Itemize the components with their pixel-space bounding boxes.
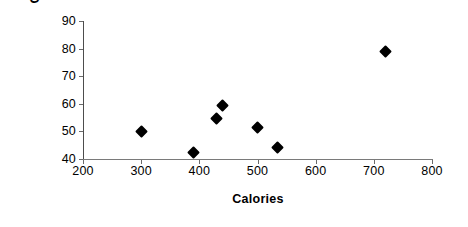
y-axis-tick bbox=[79, 104, 83, 105]
scatter-chart: Cholesterol 405060708090 200300400500600… bbox=[0, 0, 468, 227]
y-axis-tick bbox=[79, 76, 83, 77]
y-axis-tick bbox=[79, 49, 83, 50]
x-axis-tick-label: 300 bbox=[119, 164, 163, 178]
y-axis-line bbox=[83, 21, 84, 160]
data-point-marker bbox=[187, 146, 200, 159]
x-axis-tick-label: 400 bbox=[177, 164, 221, 178]
x-axis-tick-label: 500 bbox=[236, 164, 280, 178]
data-point-marker bbox=[216, 99, 229, 112]
y-axis-tick bbox=[79, 21, 83, 22]
data-point-marker bbox=[135, 125, 148, 138]
data-point-marker bbox=[251, 121, 264, 134]
x-axis-tick-label: 600 bbox=[294, 164, 338, 178]
data-point-marker bbox=[210, 113, 223, 126]
y-axis-tick bbox=[79, 131, 83, 132]
data-point-marker bbox=[271, 142, 284, 155]
x-axis-title: Calories bbox=[83, 192, 433, 206]
x-axis-tick-label: 800 bbox=[410, 164, 454, 178]
data-point-marker bbox=[379, 45, 392, 58]
x-axis-tick-label: 200 bbox=[61, 164, 105, 178]
x-axis-tick-label: 700 bbox=[352, 164, 396, 178]
